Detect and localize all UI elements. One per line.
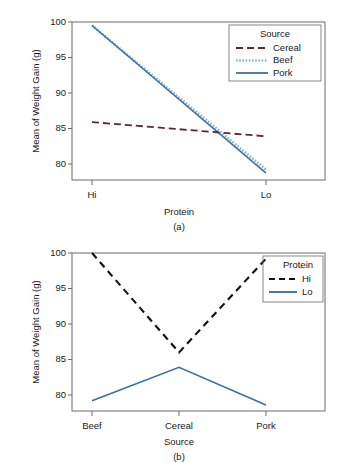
series-line-lo-b <box>92 367 266 405</box>
x-axis-title-a: Protein <box>164 206 194 217</box>
figure-caption-a: (a) <box>173 221 185 232</box>
legend-entry-beef-a[interactable]: Beef <box>236 54 293 65</box>
y-tick-label-100-a: 100 <box>50 16 66 27</box>
chart-b-svg: Mean of Weight Gain (g) 80 85 90 95 100 … <box>0 232 338 463</box>
legend-entry-cereal-a[interactable]: Cereal <box>236 42 301 53</box>
legend-label-cereal-a: Cereal <box>273 42 301 53</box>
y-tick-label-95-a: 95 <box>55 51 66 62</box>
legend-label-lo-b: Lo <box>302 286 313 297</box>
y-tick-label-80-a: 80 <box>55 158 66 169</box>
y-tick-label-85-b: 85 <box>55 353 66 364</box>
y-tick-label-95-b: 95 <box>55 282 66 293</box>
legend-label-hi-b: Hi <box>302 273 311 284</box>
legend-title-a: Source <box>260 28 290 39</box>
series-line-cereal-a <box>92 122 266 136</box>
legend-entry-hi-b[interactable]: Hi <box>269 273 311 284</box>
y-tick-label-85-a: 85 <box>55 122 66 133</box>
y-axis-title-a: Mean of Weight Gain (g) <box>30 49 41 152</box>
legend-entry-pork-a[interactable]: Pork <box>236 67 293 78</box>
x-tick-label-hi-a: Hi <box>88 189 97 200</box>
y-axis-title-b: Mean of Weight Gain (g) <box>30 280 41 383</box>
legend-a: Source Cereal Beef Pork <box>229 25 321 81</box>
x-tick-label-pork-b: Pork <box>256 420 276 431</box>
legend-title-b: Protein <box>283 259 313 270</box>
legend-label-pork-a: Pork <box>273 67 293 78</box>
chart-a-svg: Mean of Weight Gain (g) 80 85 90 95 100 … <box>0 0 338 232</box>
interaction-plot-a: Mean of Weight Gain (g) 80 85 90 95 100 … <box>0 0 338 232</box>
figure-caption-b: (b) <box>173 451 185 462</box>
legend-entry-lo-b[interactable]: Lo <box>269 286 313 297</box>
y-tick-label-90-b: 90 <box>55 318 66 329</box>
x-axis-title-b: Source <box>164 436 194 447</box>
x-tick-label-cereal-b: Cereal <box>165 420 193 431</box>
x-tick-label-lo-a: Lo <box>261 189 272 200</box>
interaction-plot-b: Mean of Weight Gain (g) 80 85 90 95 100 … <box>0 232 338 463</box>
legend-b: Protein Hi Lo <box>263 256 323 302</box>
y-tick-label-100-b: 100 <box>50 247 66 258</box>
legend-label-beef-a: Beef <box>273 54 293 65</box>
x-tick-label-beef-b: Beef <box>82 420 102 431</box>
series-line-hi-b <box>92 253 266 352</box>
y-tick-label-80-b: 80 <box>55 389 66 400</box>
y-tick-label-90-a: 90 <box>55 87 66 98</box>
